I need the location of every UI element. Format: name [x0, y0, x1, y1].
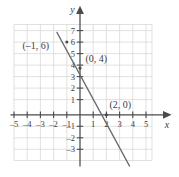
y-tick-label: 1: [71, 95, 75, 105]
point-label-0-4: (0, 4): [86, 53, 108, 65]
point-marker-neg1-6: [65, 41, 68, 44]
x-axis-label: x: [164, 119, 170, 130]
x-tick-label: 4: [131, 119, 136, 129]
y-tick-label: –2: [66, 133, 76, 143]
y-tick-label: 5: [71, 49, 75, 59]
coordinate-plane-figure: –5 –4 –3 –2 –1 1 2 3 4 5 7 6 5 4 3 2 1 –…: [0, 0, 179, 177]
y-tick-label: 7: [71, 26, 75, 36]
x-tick-label: –4: [22, 119, 32, 129]
y-tick-label: –1: [66, 121, 76, 131]
point-marker-0-4: [78, 67, 81, 70]
y-tick-label: 3: [71, 72, 75, 82]
x-tick-label: 5: [144, 119, 148, 129]
graph-canvas: –5 –4 –3 –2 –1 1 2 3 4 5 7 6 5 4 3 2 1 –…: [0, 0, 179, 177]
y-tick-label: –3: [66, 144, 76, 154]
point-label-2-0: (2, 0): [110, 99, 132, 111]
x-tick-label: –2: [48, 119, 58, 129]
x-tick-label: 1: [91, 119, 95, 129]
x-tick-label: –5: [9, 119, 19, 129]
y-tick-label: 6: [71, 37, 75, 47]
x-tick-label: 3: [117, 119, 121, 129]
x-tick-label: –3: [35, 119, 45, 129]
point-label-neg1-6: (–1, 6): [23, 40, 50, 52]
y-axis-label: y: [69, 4, 75, 15]
y-tick-label: 2: [71, 83, 75, 93]
point-marker-2-0: [105, 113, 108, 116]
